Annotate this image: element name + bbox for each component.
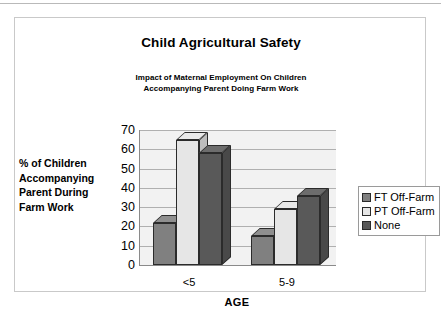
x-axis-tick-label: 5-9	[279, 276, 295, 288]
chart-subtitle: Impact of Maternal Employment On Childre…	[15, 72, 427, 94]
bar	[176, 140, 199, 265]
chart-subtitle-line-1: Impact of Maternal Employment On Childre…	[15, 72, 427, 83]
y-axis-title-line-4: Farm Work	[19, 200, 117, 215]
plot-area: 706050403020100 <55-9	[139, 130, 336, 266]
bar-front-face	[251, 236, 274, 265]
chart-legend: FT Off-FarmPT Off-FarmNone	[358, 186, 440, 236]
x-axis-title: AGE	[139, 296, 335, 308]
legend-label: None	[374, 219, 400, 231]
bar	[153, 223, 176, 265]
y-axis-tick-label: 20	[121, 220, 135, 233]
y-axis-tick-label: 40	[121, 182, 135, 195]
bar-side-face	[320, 187, 329, 265]
y-axis-tick-label: 70	[121, 124, 135, 137]
bars-layer	[140, 130, 336, 265]
y-axis-title: % of Children Accompanying Parent During…	[19, 156, 117, 214]
chart-subtitle-line-2: Accompanying Parent Doing Farm Work	[15, 83, 427, 94]
y-axis-tick-label: 0	[128, 259, 135, 272]
legend-swatch-icon	[362, 193, 371, 202]
bar	[274, 209, 297, 265]
y-axis-tick-label: 60	[121, 143, 135, 156]
bar-front-face	[274, 209, 297, 265]
y-axis-title-line-1: % of Children	[19, 156, 117, 171]
y-axis-tick-label: 50	[121, 162, 135, 175]
legend-item[interactable]: None	[362, 218, 435, 232]
legend-label: PT Off-Farm	[374, 205, 435, 217]
legend-swatch-icon	[362, 207, 371, 216]
page-top-divider	[0, 3, 441, 4]
legend-item[interactable]: FT Off-Farm	[362, 190, 435, 204]
y-axis-tick-label: 30	[121, 201, 135, 214]
y-axis-title-line-2: Accompanying	[19, 171, 117, 186]
x-axis-tick-label: <5	[183, 276, 196, 288]
chart-frame: Child Agricultural Safety Impact of Mate…	[14, 17, 426, 292]
bar	[199, 153, 222, 265]
bar-front-face	[199, 153, 222, 265]
bar-front-face	[153, 223, 176, 265]
bar	[251, 236, 274, 265]
chart-title: Child Agricultural Safety	[15, 35, 427, 50]
legend-swatch-icon	[362, 221, 371, 230]
bar-side-face	[222, 145, 231, 265]
bar	[297, 196, 320, 265]
y-axis-title-line-3: Parent During	[19, 185, 117, 200]
chart-page: Child Agricultural Safety Impact of Mate…	[0, 0, 441, 317]
legend-label: FT Off-Farm	[374, 191, 434, 203]
y-axis-tick-label: 10	[121, 239, 135, 252]
bar-front-face	[176, 140, 199, 265]
legend-item[interactable]: PT Off-Farm	[362, 204, 435, 218]
bar-front-face	[297, 196, 320, 265]
